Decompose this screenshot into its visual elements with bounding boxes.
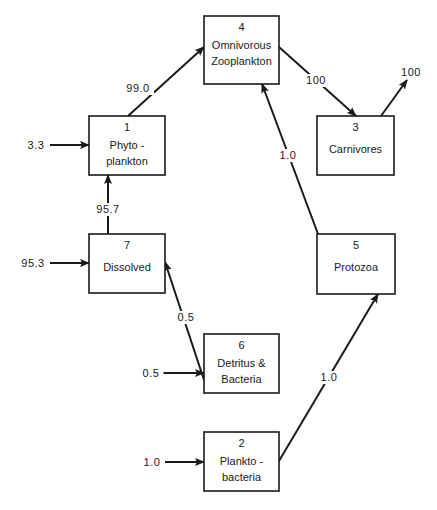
flow-value: 95.7	[96, 203, 119, 215]
flow-label: 100	[399, 66, 424, 79]
node-number: 1	[124, 121, 130, 133]
node-compartment-4: 4OmnivorousZooplankton	[204, 16, 279, 84]
flow-label: 95.7	[92, 203, 124, 216]
flow-label: 1.0	[140, 456, 165, 469]
flow-label: 1.0	[317, 371, 342, 384]
node-compartment-7: 7Dissolved	[89, 234, 165, 293]
flow-label: 0.5	[174, 311, 199, 324]
flow-arrow-3-to-out	[381, 80, 407, 116]
node-number: 4	[238, 21, 244, 33]
flow-value: 0.5	[178, 311, 195, 323]
node-label: Zooplankton	[211, 55, 272, 67]
node-number: 2	[238, 437, 244, 449]
flow-value: 3.3	[28, 139, 45, 151]
node-compartment-2: 2Plankto -bacteria	[204, 432, 279, 491]
node-number: 3	[352, 121, 358, 133]
node-label: Dissolved	[103, 261, 151, 273]
flow-value: 1.0	[144, 456, 161, 468]
node-label: Protozoa	[334, 261, 379, 273]
node-compartment-6: 6Detritus &Bacteria	[204, 334, 279, 393]
flow-label: 0.5	[139, 367, 164, 380]
node-compartment-1: 1Phyto -plankton	[89, 116, 165, 175]
node-number: 6	[238, 339, 244, 351]
node-label: Omnivorous	[212, 39, 272, 51]
node-label: Bacteria	[221, 373, 262, 385]
food-web-diagram: 4OmnivorousZooplankton1Phyto -plankton3C…	[0, 0, 437, 510]
node-label: Phyto -	[110, 139, 145, 151]
flow-value: 100	[401, 66, 421, 78]
node-label: plankton	[106, 155, 148, 167]
flow-value: 0.5	[143, 367, 160, 379]
flow-label: 99.0	[122, 82, 154, 95]
flow-label: 95.3	[17, 257, 49, 270]
flow-label: 100	[304, 74, 329, 87]
node-label: Carnivores	[329, 143, 383, 155]
flow-value: 99.0	[126, 82, 149, 94]
node-number: 5	[353, 239, 359, 251]
node-label: Detritus &	[217, 357, 266, 369]
flow-label: 3.3	[24, 139, 49, 152]
flow-value: 95.3	[21, 257, 44, 269]
node-compartment-3: 3Carnivores	[317, 116, 394, 175]
flow-value: 1.0	[280, 149, 297, 161]
node-compartment-5: 5Protozoa	[317, 234, 395, 294]
node-label: bacteria	[222, 471, 262, 483]
flow-label: 1.0	[276, 149, 301, 162]
flow-value: 1.0	[321, 371, 338, 383]
node-label: Plankto -	[220, 455, 264, 467]
flow-value: 100	[306, 74, 326, 86]
node-number: 7	[124, 239, 130, 251]
